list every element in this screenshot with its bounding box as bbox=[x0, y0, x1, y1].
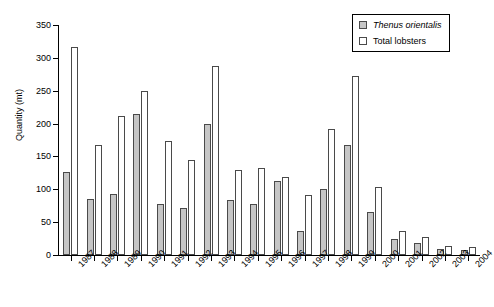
bar bbox=[87, 199, 94, 256]
bar-group bbox=[457, 25, 480, 255]
bar bbox=[71, 47, 78, 255]
x-axis-tick-label: 1999 bbox=[356, 262, 363, 269]
bar bbox=[258, 168, 265, 255]
bar bbox=[274, 181, 281, 255]
bar-group bbox=[340, 25, 363, 255]
bar bbox=[133, 114, 140, 255]
y-axis-tick-label: 50 bbox=[41, 217, 51, 227]
bar-group bbox=[176, 25, 199, 255]
legend-swatch-icon bbox=[359, 37, 367, 45]
y-axis-tick bbox=[53, 255, 58, 256]
bar-group bbox=[316, 25, 339, 255]
x-axis-tick-label: 2003 bbox=[450, 262, 457, 269]
bar-group bbox=[246, 25, 269, 255]
legend-item-thenus-orientalis: Thenus orientalis bbox=[359, 20, 442, 30]
legend-item-label: Total lobsters bbox=[373, 36, 426, 46]
bar bbox=[328, 129, 335, 255]
x-axis-tick-label: 1988 bbox=[99, 262, 106, 269]
y-axis-tick-label: 300 bbox=[36, 53, 51, 63]
bar-group bbox=[106, 25, 129, 255]
x-axis-tick bbox=[71, 256, 72, 261]
bar bbox=[212, 66, 219, 255]
x-axis-tick-label: 1987 bbox=[76, 262, 83, 269]
y-axis-tick bbox=[53, 124, 58, 125]
legend-item-total-lobsters: Total lobsters bbox=[359, 36, 442, 46]
x-axis-tick-label: 1998 bbox=[333, 262, 340, 269]
bar bbox=[204, 124, 211, 255]
bar bbox=[95, 145, 102, 255]
bar bbox=[375, 187, 382, 255]
bar bbox=[235, 170, 242, 255]
x-axis-tick-label: 1994 bbox=[239, 262, 246, 269]
y-axis-tick bbox=[53, 25, 58, 26]
bar bbox=[188, 160, 195, 255]
legend: Thenus orientalis Total lobsters bbox=[352, 14, 450, 52]
bar-group bbox=[129, 25, 152, 255]
y-axis-tick bbox=[53, 58, 58, 59]
x-axis-tick-label: 1989 bbox=[122, 262, 129, 269]
y-axis-tick-label: 150 bbox=[36, 151, 51, 161]
x-axis-tick-label: 1995 bbox=[263, 262, 270, 269]
x-axis-tick-label: 2004 bbox=[473, 262, 480, 269]
x-axis-tick-label: 2000 bbox=[380, 262, 387, 269]
y-axis-tick bbox=[53, 156, 58, 157]
bar-group bbox=[82, 25, 105, 255]
bar bbox=[282, 177, 289, 255]
bar bbox=[305, 195, 312, 255]
bar-group bbox=[293, 25, 316, 255]
y-axis-tick-label: 100 bbox=[36, 184, 51, 194]
x-axis-tick-label: 1991 bbox=[169, 262, 176, 269]
legend-item-label: Thenus orientalis bbox=[373, 20, 442, 30]
y-axis-title: Quantity (mt) bbox=[14, 70, 24, 160]
bar bbox=[399, 231, 406, 255]
x-axis-labels: 1987198819891990199119921993199419951996… bbox=[59, 262, 480, 307]
bar-chart: Quantity (mt) 050100150200250300350 1987… bbox=[0, 0, 494, 307]
bar-group bbox=[199, 25, 222, 255]
bar bbox=[118, 116, 125, 255]
bar bbox=[344, 145, 351, 255]
bar bbox=[320, 189, 327, 255]
bar-groups bbox=[59, 25, 480, 255]
bar-group bbox=[363, 25, 386, 255]
x-axis-tick-label: 2002 bbox=[427, 262, 434, 269]
x-axis-tick-label: 1993 bbox=[216, 262, 223, 269]
bar bbox=[227, 200, 234, 255]
y-axis-tick-label: 350 bbox=[36, 20, 51, 30]
bar-group bbox=[153, 25, 176, 255]
x-axis-tick-label: 1997 bbox=[310, 262, 317, 269]
legend-swatch-icon bbox=[359, 21, 367, 29]
y-axis-tick-label: 200 bbox=[36, 119, 51, 129]
bar-group bbox=[433, 25, 456, 255]
bar-group bbox=[270, 25, 293, 255]
bar bbox=[63, 172, 70, 255]
plot-area: 050100150200250300350 bbox=[58, 25, 480, 255]
y-axis-tick bbox=[53, 189, 58, 190]
x-axis-tick-label: 1996 bbox=[286, 262, 293, 269]
bar-group bbox=[223, 25, 246, 255]
x-axis-tick-label: 2001 bbox=[403, 262, 410, 269]
x-axis-tick-label: 1990 bbox=[146, 262, 153, 269]
y-axis-tick-label: 0 bbox=[46, 250, 51, 260]
bar bbox=[141, 91, 148, 255]
y-axis-tick bbox=[53, 222, 58, 223]
bar-group bbox=[59, 25, 82, 255]
bar bbox=[352, 76, 359, 255]
bar bbox=[165, 141, 172, 255]
bar bbox=[250, 204, 257, 255]
bar-group bbox=[386, 25, 409, 255]
y-axis-tick bbox=[53, 91, 58, 92]
bar-group bbox=[410, 25, 433, 255]
y-axis-tick-label: 250 bbox=[36, 86, 51, 96]
bar bbox=[422, 237, 429, 255]
x-axis-tick-label: 1992 bbox=[193, 262, 200, 269]
bar bbox=[110, 194, 117, 255]
